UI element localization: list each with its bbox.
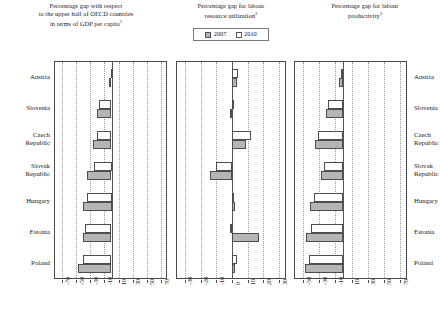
axis-tick-label: 50 [386,279,392,285]
bar-2010-slovak-republic [324,162,343,171]
grid-line [319,62,320,278]
axis-tick-label: -50 [79,277,85,285]
bar-2007-slovak-republic [87,171,111,180]
bar-2010-estonia [85,224,112,233]
grid-line [62,62,63,278]
axis-tick-label: 50 [149,279,155,285]
axis-tick-label: -30 [187,277,193,285]
axis-tick-label: -10 [219,277,225,285]
bar-2007-estonia [306,233,343,242]
panel-1-title: Percentage gap with respect to the upper… [0,2,172,29]
panel-1-footnote-marker: 1 [120,19,122,24]
axis-tick-mark [279,280,280,283]
panel-labour-resource-utilization: Percentage gap for labour resource utili… [172,0,290,315]
bar-2010-slovenia [232,100,234,109]
bar-2010-estonia [311,224,343,233]
panel-3-title: Percentage gap for labour productivity3 [290,2,440,21]
bar-2007-poland [232,264,235,273]
bar-2010-slovak-republic [94,162,112,171]
country-label-austria: Austria [414,73,434,81]
axis-tick-label: 70 [164,279,170,285]
bar-2010-austria [232,69,238,78]
panel-labour-productivity: Percentage gap for labour productivity3 … [290,0,440,315]
bar-2007-estonia [83,233,112,242]
country-label-czech-republic: CzechRepublic [414,131,439,147]
bar-2007-czech-republic [93,140,111,149]
axis-tick-label: 30 [135,279,141,285]
bar-2010-poland [83,255,112,264]
bar-2007-hungary [83,202,111,211]
axis-tick-mark [62,280,63,283]
zero-axis-line [343,62,344,278]
grid-line [201,62,202,278]
bar-2007-poland [305,264,344,273]
country-label-estonia: Estonia [30,228,50,236]
axis-tick-label: 70 [403,279,409,285]
bar-2007-austria [232,78,237,87]
bar-2010-austria [111,69,113,78]
panel-3-footnote-marker: 3 [380,11,382,16]
bar-2010-czech-republic [318,131,344,140]
bar-2007-slovak-republic [321,171,344,180]
bar-2010-czech-republic [97,131,112,140]
panel-2-title-line-2: resource utilization [205,12,255,19]
panel-1-title-line-2: to the upper half of OECD countries [39,10,134,17]
bar-2007-slovenia [326,109,344,118]
bar-2010-slovak-republic [216,162,232,171]
bar-2007-hungary [232,202,235,211]
bar-2007-slovenia [97,109,112,118]
axis-tick-mark [161,280,162,283]
bar-2007-czech-republic [232,140,246,149]
country-labels-left: AustriaSloveniaCzechRepublicSlovakRepubl… [0,61,52,279]
country-label-poland: Poland [414,259,433,267]
bar-2010-estonia [230,224,232,233]
bar-2007-slovenia [230,109,232,118]
grid-line [400,62,401,278]
bar-2007-slovak-republic [210,171,232,180]
axis-tick-label: -30 [93,277,99,285]
axis-tick-label: 30 [282,279,288,285]
country-label-slovenia: Slovenia [26,104,50,112]
country-label-czech-republic: CzechRepublic [25,131,50,147]
country-label-slovak-republic: SlovakRepublic [414,162,439,178]
panel-1-title-line-3: in terms of GDP per capita [50,21,120,28]
axis-tick-label: 10 [354,279,360,285]
grid-line [133,62,134,278]
bar-2007-austria [109,78,112,87]
axis-tick-label: -50 [306,277,312,285]
plot-area-gdp-per-capita: -70-50-30-1010305070 [54,61,167,279]
grid-line [119,62,120,278]
bar-2007-austria [339,78,344,87]
legend-swatch-2007-icon [205,32,211,38]
grid-line [352,62,353,278]
grid-line [161,62,162,278]
bar-2010-slovenia [328,100,343,109]
axis-tick-label: -20 [203,277,209,285]
plot-area-labour-productivity: -50-30-1010305070 [294,61,407,279]
legend-label-2007: 2007 [214,31,227,37]
grid-line [279,62,280,278]
country-label-slovenia: Slovenia [414,104,438,112]
panel-gdp-per-capita: Percentage gap with respect to the upper… [0,0,172,315]
axis-tick-label: -70 [65,277,71,285]
legend-item-2007: 2007 [205,31,226,37]
legend-label-2010: 2010 [244,31,257,37]
axis-tick-mark [232,280,233,283]
grid-line [90,62,91,278]
panel-2-title: Percentage gap for labour resource utili… [172,2,290,21]
bar-2007-estonia [232,233,259,242]
bar-2007-poland [78,264,111,273]
axis-tick-label: 10 [121,279,127,285]
bar-2010-slovenia [99,100,111,109]
axis-tick-label: -30 [322,277,328,285]
country-label-hungary: Hungary [26,197,50,205]
bar-2010-czech-republic [232,131,251,140]
bar-2010-austria [341,69,343,78]
legend: 2007 2010 [193,28,269,41]
axis-tick-label: 10 [250,279,256,285]
bar-2007-czech-republic [315,140,343,149]
panel-3-title-line-1: Percentage gap for labour [331,2,398,9]
grid-line [303,62,304,278]
axis-tick-mark [303,280,304,283]
panel-2-title-line-1: Percentage gap for labour [197,2,264,9]
